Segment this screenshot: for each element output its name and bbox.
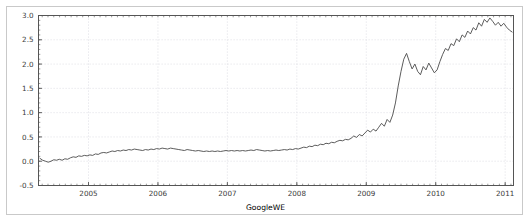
x-axis-label: GoogleWE [246, 203, 285, 212]
y-tick-label: 0.5 [22, 133, 33, 142]
y-tick-label: 2.5 [22, 35, 33, 44]
chart-figure: -0.50.00.51.01.52.02.53.0200520062007200… [0, 0, 531, 223]
tick-labels: -0.50.00.51.01.52.02.53.0200520062007200… [19, 11, 514, 198]
y-tick-label: 1.0 [22, 108, 34, 117]
y-tick-label: 0.0 [22, 157, 34, 166]
axes-spines [39, 16, 514, 186]
y-tick-label: -0.5 [19, 181, 33, 190]
y-tick-label: 1.5 [22, 84, 33, 93]
y-tick-label: 2.0 [22, 60, 34, 69]
grid-lines [39, 16, 514, 186]
chart-canvas: -0.50.00.51.01.52.02.53.0200520062007200… [0, 0, 531, 223]
tick-marks [39, 16, 511, 186]
y-tick-label: 3.0 [22, 11, 34, 20]
